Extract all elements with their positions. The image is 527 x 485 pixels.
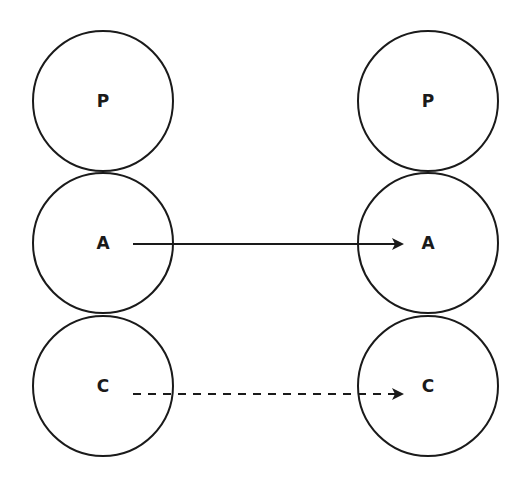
right-node-p: P [358, 31, 498, 171]
right-node-p-label: P [422, 91, 434, 111]
left-node-c-label: C [97, 376, 109, 396]
left-node-p-label: P [97, 91, 109, 111]
left-node-a-label: A [96, 233, 110, 253]
left-node-c: C [33, 316, 173, 456]
right-node-c-label: C [422, 376, 434, 396]
diagram-canvas: P A C P A C [0, 0, 527, 485]
right-node-c: C [358, 316, 498, 456]
right-node-a-label: A [421, 233, 435, 253]
left-node-p: P [33, 31, 173, 171]
